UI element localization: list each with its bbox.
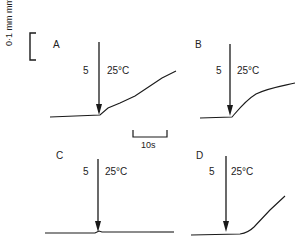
panel-b-trace (200, 83, 295, 118)
arrowhead-icon (95, 221, 101, 232)
panel-c-graphics (45, 159, 150, 233)
panel-d-stimulus-number: 5 (209, 167, 215, 177)
panel-a-trace (50, 71, 176, 117)
panel-b-temperature: 25°C (237, 66, 259, 76)
panel-b-graphics (200, 44, 295, 118)
panel-a-letter: A (53, 40, 60, 50)
panel-d-letter: D (196, 151, 203, 161)
arrowhead-icon (223, 221, 229, 232)
panel-b-letter: B (195, 40, 202, 50)
panel-c-temperature: 25°C (105, 167, 127, 177)
panel-b-stimulus-number: 5 (216, 66, 222, 76)
panel-d-temperature: 25°C (231, 167, 253, 177)
figure-graphics (0, 0, 305, 246)
vertical-scale-bar (30, 33, 36, 60)
panel-c-stimulus-number: 5 (83, 167, 89, 177)
time-scale-bar (133, 130, 167, 137)
panel-c-letter: C (56, 151, 63, 161)
panel-a-stimulus-number: 5 (83, 66, 89, 76)
panel-a-graphics (50, 42, 176, 117)
panel-a-temperature: 25°C (107, 66, 129, 76)
panel-c-trace (45, 231, 150, 233)
arrowhead-icon (227, 105, 233, 116)
panel-d-trace (191, 196, 285, 235)
vertical-scale-text: 0·1 mm mm (4, 0, 14, 46)
vertical-scale-label: 0·1 mm mm-1 (3, 0, 14, 46)
figure: 0·1 mm mm-1 10s A 5 25°C B 5 25°C C 5 25… (0, 0, 305, 246)
time-scale-label: 10s (141, 140, 156, 150)
panel-d-graphics (150, 156, 285, 235)
